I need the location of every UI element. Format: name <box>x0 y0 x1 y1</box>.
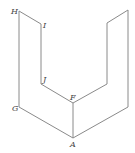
label-H: H <box>10 7 19 16</box>
edges <box>19 10 128 138</box>
edge-AG <box>19 107 73 138</box>
diagram-canvas: H I J F G A <box>0 0 135 153</box>
label-I: I <box>42 21 47 30</box>
edge-P2P1 <box>107 10 128 23</box>
edge-P4A <box>73 107 128 138</box>
edge-HI <box>19 11 41 24</box>
label-A: A <box>69 140 76 149</box>
label-F: F <box>69 93 76 102</box>
label-J: J <box>41 75 47 84</box>
vertex-labels: H I J F G A <box>10 7 76 149</box>
edge-JF <box>41 84 73 103</box>
label-G: G <box>12 104 19 113</box>
edge-FP3 <box>73 84 107 103</box>
